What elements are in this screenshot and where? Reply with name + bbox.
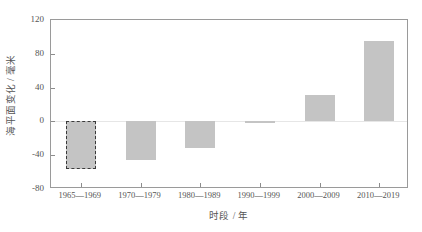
x-axis-tick-labels: 1965—19691970—19791980—19891990—19992000…: [50, 190, 408, 206]
y-tick-mark: [51, 121, 55, 122]
x-tick-label: 1990—1999: [238, 190, 281, 200]
x-tick-label: 2000—2009: [297, 190, 340, 200]
x-tick-mark: [141, 183, 142, 187]
x-tick-label: 1970—1979: [118, 190, 161, 200]
x-tick-mark: [320, 183, 321, 187]
x-tick-mark: [379, 183, 380, 187]
bar-1965-1969: [66, 121, 96, 168]
bar-2000-2009: [305, 95, 335, 121]
y-tick-label: -40: [18, 149, 44, 159]
x-tick-label: 1980—1989: [178, 190, 221, 200]
y-tick-label: -80: [18, 183, 44, 193]
bar-1990-1999: [245, 121, 275, 123]
plot-area: [50, 19, 408, 188]
y-tick-label: 80: [18, 48, 44, 58]
x-tick-label: 2010—2019: [357, 190, 400, 200]
x-tick-mark: [200, 183, 201, 187]
y-tick-label: 0: [18, 115, 44, 125]
bar-1970-1979: [126, 121, 156, 160]
zero-baseline: [51, 121, 407, 122]
bar-2010-2019: [364, 41, 394, 121]
x-tick-mark: [260, 183, 261, 187]
sea-level-change-bar-chart: 海平面变化 / 毫米 12080400-40-80 1965—19691970—…: [0, 0, 422, 232]
y-tick-mark: [51, 155, 55, 156]
y-tick-label: 40: [18, 82, 44, 92]
y-tick-label: 120: [18, 14, 44, 24]
y-axis-tick-labels: 12080400-40-80: [14, 0, 44, 232]
x-tick-mark: [81, 183, 82, 187]
x-tick-label: 1965—1969: [59, 190, 102, 200]
y-tick-mark: [51, 54, 55, 55]
y-tick-mark: [51, 88, 55, 89]
x-axis-title: 时段 / 年: [50, 208, 408, 222]
bar-1980-1989: [185, 121, 215, 148]
